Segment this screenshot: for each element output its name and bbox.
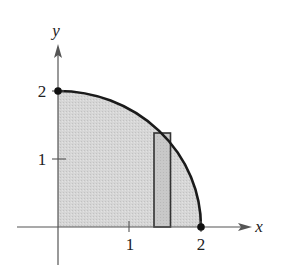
figure: y x 2 1 1 2 bbox=[0, 0, 282, 277]
y-axis-label: y bbox=[50, 21, 60, 40]
point-0-2 bbox=[54, 87, 62, 95]
shaded-region bbox=[58, 91, 201, 227]
point-2-0 bbox=[197, 223, 205, 231]
x-axis-label: x bbox=[254, 217, 263, 236]
y-tick-label-1: 1 bbox=[38, 150, 47, 169]
x-tick-label-1: 1 bbox=[126, 235, 135, 254]
diagram-svg: y x 2 1 1 2 bbox=[0, 0, 282, 277]
x-tick-label-2: 2 bbox=[197, 235, 206, 254]
representative-rectangle bbox=[154, 133, 171, 227]
y-tick-label-2: 2 bbox=[38, 82, 47, 101]
